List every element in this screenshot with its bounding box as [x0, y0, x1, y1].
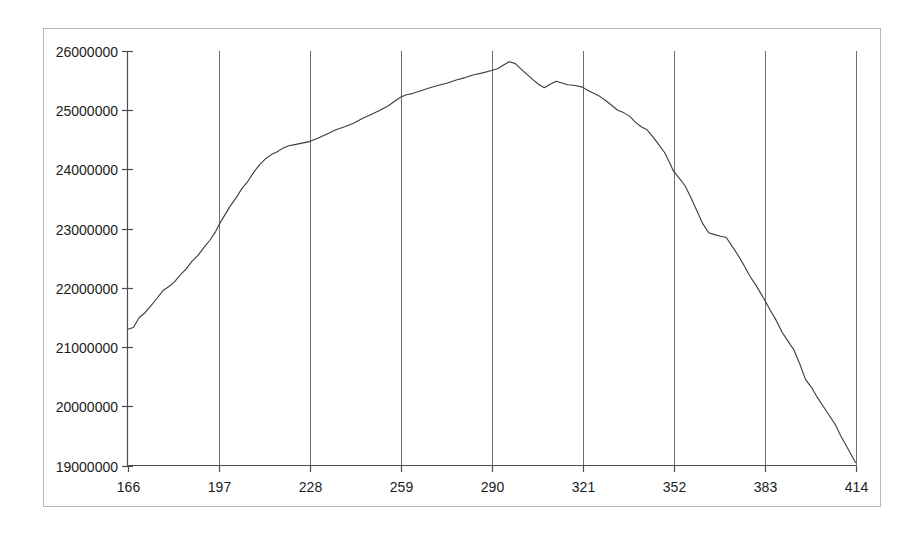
data-series-line [128, 62, 856, 463]
chart-border [44, 29, 881, 507]
chart-canvas: 1900000020000000210000002200000023000000… [0, 0, 917, 533]
line-chart [0, 0, 917, 533]
